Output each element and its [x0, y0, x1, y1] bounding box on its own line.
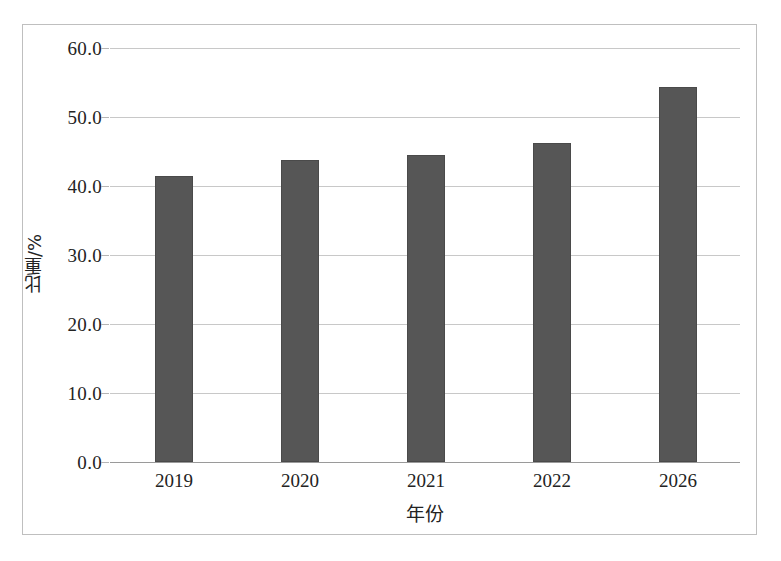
x-tick-label-2020: 2020	[250, 470, 350, 492]
y-tick-label: 10.0	[68, 384, 102, 403]
y-tick-mark	[101, 393, 109, 394]
plot-area	[110, 48, 740, 462]
bar-2020[interactable]	[281, 160, 319, 462]
y-tick-mark	[101, 117, 109, 118]
y-tick-label: 0.0	[77, 453, 102, 472]
y-tick-label: 40.0	[68, 177, 102, 196]
x-tick-label-2022: 2022	[502, 470, 602, 492]
x-axis-title: 年份	[110, 503, 740, 525]
y-tick-label: 20.0	[68, 315, 102, 334]
gridline-60	[110, 48, 740, 49]
y-tick-mark	[101, 255, 109, 256]
y-tick-mark	[101, 186, 109, 187]
gridline-50	[110, 117, 740, 118]
x-tick-label-2026: 2026	[628, 470, 728, 492]
x-tick-label-2021: 2021	[376, 470, 476, 492]
y-axis-tick-labels: 60.0 50.0 40.0 30.0 20.0 10.0 0.0	[40, 0, 102, 561]
bar-2026[interactable]	[659, 87, 697, 462]
y-tick-mark	[101, 462, 109, 463]
bar-2022[interactable]	[533, 143, 571, 462]
y-tick-label: 60.0	[68, 39, 102, 58]
y-tick-mark	[101, 48, 109, 49]
y-tick-label: 50.0	[68, 108, 102, 127]
bar-2019[interactable]	[155, 176, 193, 462]
x-tick-label-2019: 2019	[124, 470, 224, 492]
x-axis-line	[110, 462, 740, 463]
bar-2021[interactable]	[407, 155, 445, 462]
y-tick-label: 30.0	[68, 246, 102, 265]
y-tick-mark	[101, 324, 109, 325]
